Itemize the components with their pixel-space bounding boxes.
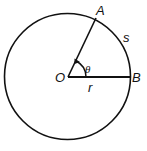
label-theta: θ <box>85 63 91 75</box>
radius-oa <box>68 18 96 77</box>
label-a: A <box>95 3 105 18</box>
label-o: O <box>55 70 65 85</box>
label-s: s <box>123 30 130 45</box>
label-b: B <box>132 70 141 85</box>
circle-diagram: A s θ O B r <box>0 0 147 151</box>
label-r: r <box>88 80 93 95</box>
